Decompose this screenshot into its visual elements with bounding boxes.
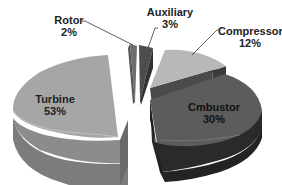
label-auxiliary-pct: 3% [146, 18, 194, 30]
label-compressor-pct: 12% [218, 37, 282, 49]
label-combustor-name: Cmbustor [186, 101, 242, 113]
slice-rotor [128, 44, 137, 104]
label-combustor: Cmbustor 30% [186, 101, 242, 125]
label-rotor: Rotor 2% [52, 14, 86, 38]
label-compressor-name: Compressor [218, 25, 282, 37]
label-auxiliary: Auxiliary 3% [146, 6, 194, 30]
label-compressor: Compressor 12% [218, 25, 282, 49]
leader-auxiliary [148, 28, 158, 48]
label-auxiliary-name: Auxiliary [146, 6, 194, 18]
leader-rotor [82, 21, 133, 45]
leader-compressor [192, 30, 219, 55]
label-rotor-name: Rotor [52, 14, 86, 26]
label-turbine-pct: 53% [30, 105, 80, 117]
slice-turbine [13, 55, 128, 185]
label-turbine-name: Turbine [30, 93, 80, 105]
label-combustor-pct: 30% [186, 113, 242, 125]
label-turbine: Turbine 53% [30, 93, 80, 117]
label-rotor-pct: 2% [52, 26, 86, 38]
